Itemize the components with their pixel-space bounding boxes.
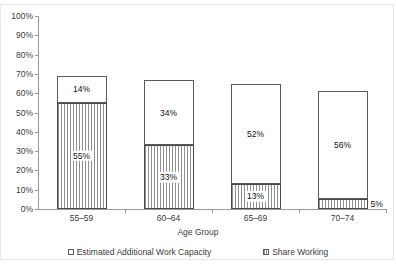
legend-item[interactable]: Share Working bbox=[263, 248, 328, 257]
bar-segment: 33% bbox=[144, 145, 194, 209]
y-axis-tickmark bbox=[35, 209, 38, 210]
chart-legend: Estimated Additional Work CapacityShare … bbox=[0, 248, 396, 257]
x-axis-tickmark bbox=[212, 209, 213, 213]
y-axis-tickmark bbox=[35, 170, 38, 171]
bar-segment: 52% bbox=[231, 84, 281, 184]
bar-segment-label: 5% bbox=[371, 200, 383, 209]
legend-item[interactable]: Estimated Additional Work Capacity bbox=[68, 248, 212, 257]
x-axis-title: Age Group bbox=[0, 228, 396, 237]
y-axis-tick-label: 100% bbox=[11, 12, 38, 21]
x-axis-category-label: 70–74 bbox=[331, 214, 355, 223]
x-axis-tickmark bbox=[386, 209, 387, 213]
legend-item-label: Estimated Additional Work Capacity bbox=[77, 248, 212, 257]
bar-segment: 14% bbox=[57, 76, 107, 103]
legend-item-label: Share Working bbox=[272, 248, 328, 257]
y-axis-tickmark bbox=[35, 35, 38, 36]
bar-segment-label: 14% bbox=[73, 85, 90, 94]
y-axis-tickmark bbox=[35, 190, 38, 191]
bar-group: 33%34% bbox=[144, 16, 194, 209]
bar-group: 5%56% bbox=[318, 16, 368, 209]
bar-segment: 56% bbox=[318, 91, 368, 199]
y-axis-tickmark bbox=[35, 55, 38, 56]
y-axis-tickmark bbox=[35, 93, 38, 94]
bar-group: 55%14% bbox=[57, 16, 107, 209]
x-axis-tickmark bbox=[125, 209, 126, 213]
bar-segment-label: 13% bbox=[245, 191, 266, 202]
x-axis-category-label: 60–64 bbox=[157, 214, 181, 223]
bar-group: 13%52% bbox=[231, 16, 281, 209]
y-axis-tickmark bbox=[35, 74, 38, 75]
y-axis-tickmark bbox=[35, 113, 38, 114]
x-axis-category-label: 65–69 bbox=[244, 214, 268, 223]
bar-segment-label: 56% bbox=[334, 141, 351, 150]
bar-segment-label: 33% bbox=[158, 172, 179, 183]
bar-segment-label: 55% bbox=[71, 151, 92, 162]
legend-swatch-hatched-icon bbox=[263, 249, 269, 255]
plot-area: 100%90%80%70%60%50%40%30%20%10%0% 55%14%… bbox=[38, 16, 386, 209]
bar-segment: 34% bbox=[144, 80, 194, 146]
bar-segment-label: 34% bbox=[160, 108, 177, 117]
y-axis-tickmark bbox=[35, 16, 38, 17]
x-axis-tickmark bbox=[299, 209, 300, 213]
bar-chart: 100%90%80%70%60%50%40%30%20%10%0% 55%14%… bbox=[0, 0, 396, 264]
bar-segment: 5% bbox=[318, 199, 368, 209]
y-axis-tickmark bbox=[35, 132, 38, 133]
legend-swatch-empty-icon bbox=[68, 249, 74, 255]
bar-segment-label: 52% bbox=[247, 129, 264, 138]
x-axis-category-label: 55–59 bbox=[70, 214, 94, 223]
bar-segment: 13% bbox=[231, 184, 281, 209]
y-axis-tickmark bbox=[35, 151, 38, 152]
bar-segment: 55% bbox=[57, 103, 107, 209]
